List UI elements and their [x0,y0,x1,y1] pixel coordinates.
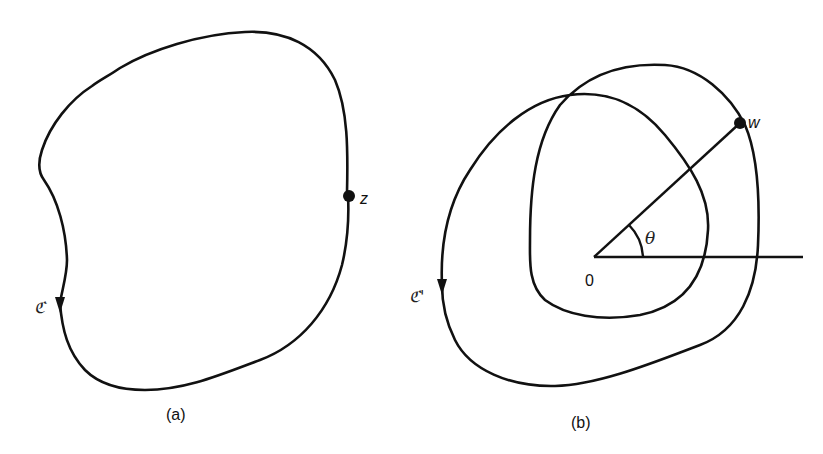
point-z-marker [343,190,355,202]
angle-theta-label: θ [645,228,655,248]
panel-b: θ 0 w ℭ' (b) [409,65,803,431]
point-z-label: z [359,190,368,207]
point-w-marker [734,117,746,129]
contour-c-prime [442,65,759,386]
caption-b: (b) [571,414,591,431]
angle-arc [629,225,643,257]
origin-label: 0 [585,272,594,289]
curve-c-prime-label: ℭ' [409,287,424,306]
caption-a: (a) [166,406,186,423]
panel-a: z ℭ (a) [34,32,368,423]
arrow-down-icon [437,279,447,295]
contour-c [39,32,348,390]
curve-c-label: ℭ [34,298,47,317]
arrow-down-icon [55,297,65,313]
figure-canvas: z ℭ (a) θ 0 w ℭ' (b) [0,0,823,454]
point-w-label: w [748,114,761,131]
ray-to-w [594,123,740,257]
